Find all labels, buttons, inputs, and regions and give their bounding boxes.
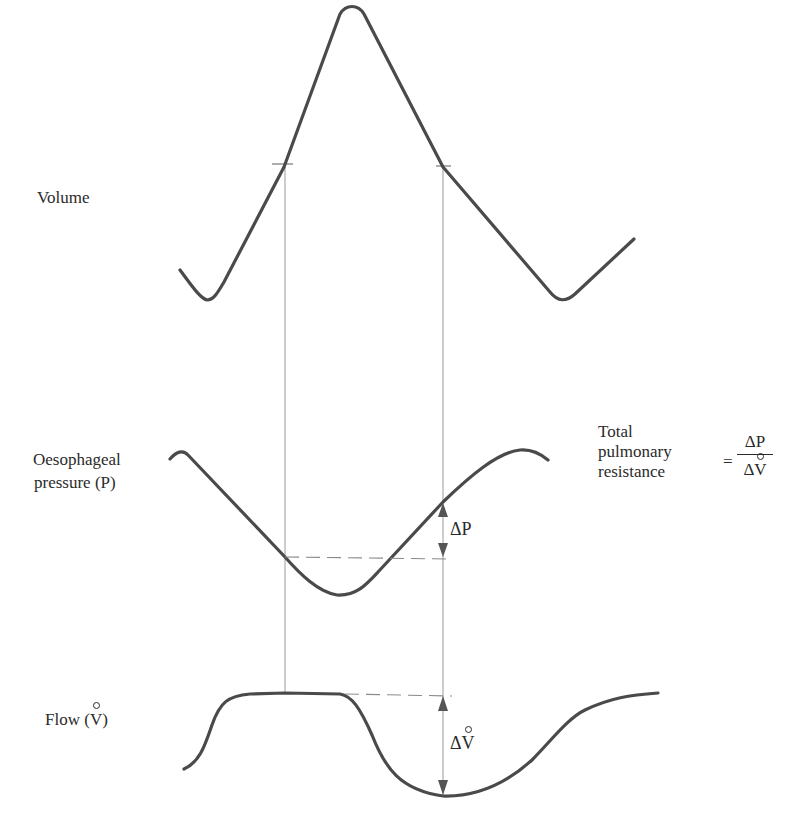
- pressure-label-line1: Oesophageal: [33, 449, 121, 470]
- volume-trace: [180, 7, 634, 301]
- formula-text-line2: pulmonary: [598, 441, 672, 462]
- delta-v-prefix: Δ: [450, 733, 462, 753]
- formula-text-line1: Total: [598, 421, 633, 442]
- flow-label: Flow (V): [45, 709, 108, 730]
- formula-text-line3: resistance: [598, 461, 665, 482]
- flow-trace: [184, 693, 658, 796]
- volume-label: Volume: [37, 187, 90, 208]
- fraction-bar: [737, 454, 773, 455]
- pressure-reference-dashed-line: [285, 557, 452, 559]
- flow-label-suffix: ): [102, 710, 108, 729]
- pressure-label-line2: pressure (P): [34, 472, 116, 493]
- delta-v-symbol: V: [462, 733, 475, 754]
- formula-equals: =: [723, 451, 733, 472]
- formula-denominator: ΔV: [743, 460, 766, 480]
- flow-reference-dashed-line: [345, 694, 452, 696]
- delta-v-label: ΔV: [450, 733, 475, 754]
- flow-label-prefix: Flow (: [45, 710, 90, 729]
- respiratory-diagram: [0, 0, 802, 825]
- pressure-trace: [170, 450, 548, 595]
- flow-symbol-vdot: V: [90, 709, 102, 730]
- formula-denominator-symbol: V: [754, 460, 766, 480]
- delta-p-label: ΔP: [450, 519, 472, 540]
- formula-fraction: ΔP ΔV: [737, 432, 773, 480]
- formula-numerator: ΔP: [745, 432, 765, 452]
